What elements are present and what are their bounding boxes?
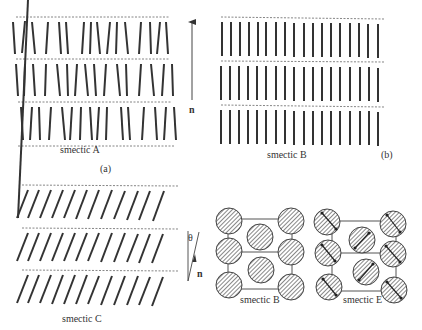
rods <box>221 22 378 146</box>
tilt-angle-label: θ <box>188 232 193 243</box>
smectic-b-top-view <box>216 208 304 300</box>
smectic-e-top-view <box>314 209 407 303</box>
smectic-b-top-view-label: smectic B <box>240 294 280 305</box>
smectic-b-panel <box>221 17 384 146</box>
smectic-b-label: smectic B <box>267 149 307 160</box>
smectic-e-top-view-label: smectic E <box>343 294 382 305</box>
panel-a-tag: (a) <box>100 163 111 174</box>
smectic-a-panel <box>13 17 192 146</box>
director-label-c: n <box>197 268 203 279</box>
panel-b-tag: (b) <box>381 149 393 160</box>
smectic-a-label: smectic A <box>60 144 100 155</box>
liquid-crystal-phases-diagram <box>0 0 422 330</box>
rods-tilted <box>17 190 164 306</box>
smectic-c-label: smectic C <box>62 313 102 324</box>
molecule-cross-sections <box>216 208 304 300</box>
director-label-a: n <box>189 104 195 115</box>
rods <box>13 21 176 140</box>
